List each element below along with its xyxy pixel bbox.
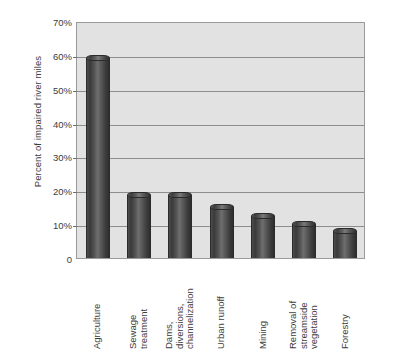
- x-axis-category-label: Agriculture: [76, 263, 117, 353]
- x-axis-category-label-text: Removal ofstreamsidevegetation: [288, 301, 320, 349]
- x-axis-category-label-text: Forestry: [340, 314, 351, 349]
- bar-top-ellipse: [86, 55, 110, 61]
- y-axis-tick-label: 0: [40, 254, 72, 265]
- bar-top-ellipse: [127, 192, 151, 198]
- bar: [210, 207, 234, 258]
- x-axis-category-label-text: Mining: [258, 321, 269, 349]
- y-axis-tick-label: 10%: [40, 220, 72, 231]
- x-axis-category-label: Mining: [241, 263, 282, 353]
- x-axis-label-line: treatment: [139, 309, 150, 349]
- bar-top-ellipse: [210, 204, 234, 210]
- y-axis-tick-label: 30%: [40, 152, 72, 163]
- x-axis-category-label-text: Urban runoff: [216, 296, 227, 349]
- x-axis-label-line: Mining: [258, 321, 269, 349]
- bar: [127, 195, 151, 258]
- x-axis-category-label: Sewagetreatment: [117, 263, 158, 353]
- bar: [292, 224, 316, 258]
- y-axis-tick-labels: 010%20%30%40%50%60%70%: [40, 22, 72, 259]
- bar-top-ellipse: [251, 213, 275, 219]
- x-axis-category-label: Urban runoff: [200, 263, 241, 353]
- x-axis-category-label: Removal ofstreamsidevegetation: [282, 263, 323, 353]
- bar-top-ellipse: [168, 192, 192, 198]
- x-axis-label-line: channelization: [185, 288, 196, 349]
- bar: [86, 58, 110, 258]
- x-axis-label-line: Agriculture: [92, 304, 103, 349]
- x-axis-label-line: Forestry: [340, 314, 351, 349]
- x-axis-category-label-text: Dams,diversions,channelization: [164, 288, 196, 349]
- x-axis-label-line: Urban runoff: [216, 296, 227, 349]
- y-axis-tick-label: 50%: [40, 84, 72, 95]
- bar: [168, 195, 192, 258]
- x-axis-category-label-text: Sewagetreatment: [128, 309, 149, 349]
- bar-chart-figure: Percent of impaired river miles 010%20%3…: [0, 0, 393, 353]
- y-axis-tick-label: 20%: [40, 186, 72, 197]
- x-axis-category-label: Dams,diversions,channelization: [159, 263, 200, 353]
- y-axis-tick-label: 40%: [40, 118, 72, 129]
- bar-top-ellipse: [333, 228, 357, 234]
- y-axis-tick-label: 70%: [40, 17, 72, 28]
- bar: [333, 231, 357, 258]
- y-axis-tick-label: 60%: [40, 50, 72, 61]
- plot-area: [76, 22, 365, 259]
- x-axis-label-line: vegetation: [309, 301, 320, 349]
- bars-group: [77, 23, 364, 258]
- bar: [251, 216, 275, 258]
- x-axis-category-label-text: Agriculture: [92, 304, 103, 349]
- bar-top-ellipse: [292, 221, 316, 227]
- x-axis-category-labels: AgricultureSewagetreatmentDams,diversion…: [76, 263, 365, 353]
- x-axis-category-label: Forestry: [324, 263, 365, 353]
